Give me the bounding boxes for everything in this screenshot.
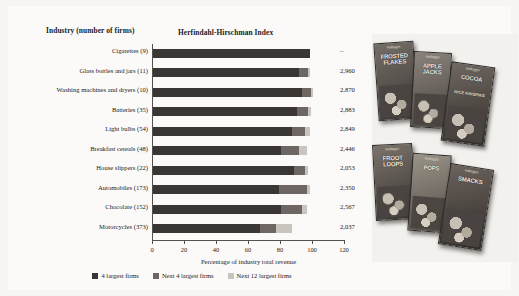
bar-segment-3	[305, 166, 308, 175]
x-tick-label: 0	[150, 246, 153, 253]
cereal-box-title: FROOT LOOPS	[376, 154, 411, 169]
bar-segment-1	[153, 185, 279, 194]
legend-swatch-icon	[153, 273, 159, 279]
legend-swatch-icon	[92, 273, 98, 279]
hhi-value: 2,567	[340, 203, 355, 210]
row-label-automobiles-173: Automobiles (173)	[0, 184, 148, 191]
hhi-value: 2,446	[340, 145, 355, 152]
stacked-bar	[153, 146, 307, 155]
bar-segment-2	[279, 185, 306, 194]
bar-segment-3	[311, 88, 313, 97]
x-tick-label: 60	[245, 246, 251, 253]
column-header-industry: Industry (number of firms)	[46, 26, 134, 35]
cereal-box-artwork	[441, 208, 484, 247]
legend-item-1: 4 largest firms	[92, 272, 138, 279]
hhi-value: 2,960	[340, 67, 355, 74]
cereal-box-subtitle: RICE KRISPIES	[450, 88, 488, 98]
x-tick-label: 40	[213, 246, 219, 253]
row-label-light-bulbs-54: Light bulbs (54)	[0, 125, 148, 132]
row-label-breakfast-cereals-48: Breakfast cereals (48)	[0, 145, 148, 152]
chart-row: Chocolate (152)2,567	[18, 200, 366, 220]
stacked-bar	[153, 185, 310, 194]
bar-segment-2	[299, 68, 309, 77]
x-tick	[344, 240, 345, 244]
hhi-value: 2,037	[340, 223, 355, 230]
bar-segment-2	[302, 88, 312, 97]
x-axis-label: Percentage of industry total revenue	[152, 258, 345, 265]
cereal-box-artwork	[413, 93, 447, 126]
stacked-bar	[153, 49, 310, 58]
cereal-box-brand: Kellogg's	[415, 156, 448, 163]
bar-segment-1	[153, 107, 297, 116]
x-tick-label: 80	[277, 246, 283, 253]
x-tick	[248, 240, 249, 244]
row-label-cigarettes-9: Cigarettes (9)	[0, 47, 148, 54]
stacked-bar	[153, 68, 310, 77]
bar-segment-1	[153, 49, 310, 58]
cereal-box-brand: Kellogg's	[417, 54, 449, 61]
hhi-value: 2,883	[340, 106, 355, 113]
bar-segment-3	[307, 185, 310, 194]
chart-row: House slippers (22)2,053	[18, 161, 366, 181]
bar-segment-1	[153, 205, 281, 214]
bar-segment-2	[260, 224, 276, 233]
page-background: Industry (number of firms) Herfindahl-Hi…	[0, 0, 519, 296]
plot-region: Cigarettes (9)–Glass bottles and jars (1…	[18, 44, 366, 240]
chart-row: Batteries (35)2,883	[18, 103, 366, 123]
row-label-batteries-35: Batteries (35)	[0, 106, 148, 113]
bar-segment-1	[153, 68, 299, 77]
bar-segment-1	[153, 146, 281, 155]
chart-row: Cigarettes (9)–	[18, 44, 366, 64]
x-tick	[184, 240, 185, 244]
figure-panel: Industry (number of firms) Herfindahl-Hi…	[8, 6, 511, 290]
row-label-washing-machines-and-dryers-10: Washing machines and dryers (10)	[0, 86, 148, 93]
x-tick-label: 120	[339, 246, 349, 253]
cereal-boxes-photo: Kellogg'sFROSTED FLAKESKellogg'sAPPLE JA…	[372, 34, 518, 262]
hhi-value: 2,053	[340, 164, 355, 171]
x-tick-label: 100	[307, 246, 317, 253]
chart-row: Breakfast cereals (48)2,446	[18, 142, 366, 162]
bar-segment-3	[276, 224, 292, 233]
bar-segment-2	[297, 107, 308, 116]
stacked-bar	[153, 224, 292, 233]
row-label-chocolate-152: Chocolate (152)	[0, 203, 148, 210]
cereal-box-title: POPS	[415, 164, 448, 173]
bar-segment-3	[308, 107, 311, 116]
bar-segment-1	[153, 88, 302, 97]
bar-segment-1	[153, 166, 294, 175]
legend-label: 4 largest firms	[101, 272, 138, 279]
bar-segment-3	[305, 127, 310, 136]
x-tick	[280, 240, 281, 244]
hhi-value: 2,849	[340, 125, 355, 132]
stacked-bar	[153, 107, 311, 116]
chart-row: Glass bottles and jars (11)2,960	[18, 64, 366, 84]
chart-row: Light bulbs (54)2,849	[18, 122, 366, 142]
stacked-bar	[153, 166, 308, 175]
cereal-box-artwork	[444, 106, 486, 144]
stacked-bar	[153, 205, 307, 214]
legend-swatch-icon	[228, 273, 234, 279]
bar-segment-1	[153, 127, 292, 136]
bar-segment-2	[292, 127, 305, 136]
legend-item-3: Next 12 largest firms	[228, 272, 292, 279]
legend-item-2: Next 4 largest firms	[153, 272, 214, 279]
row-label-motorcycles-373: Motorcycles (373)	[0, 223, 148, 230]
legend-label: Next 12 largest firms	[237, 272, 292, 279]
cereal-box-title: APPLE JACKS	[416, 62, 449, 76]
hhi-value: 2,350	[340, 184, 355, 191]
x-tick-label: 20	[181, 246, 187, 253]
stacked-bar	[153, 88, 313, 97]
bar-segment-3	[302, 205, 307, 214]
bar-segment-2	[281, 146, 299, 155]
hhi-value: –	[340, 47, 343, 54]
legend: 4 largest firmsNext 4 largest firmsNext …	[18, 272, 366, 279]
bar-segment-1	[153, 224, 260, 233]
x-tick	[216, 240, 217, 244]
row-label-house-slippers-22: House slippers (22)	[0, 164, 148, 171]
row-label-glass-bottles-and-jars-11: Glass bottles and jars (11)	[0, 67, 148, 74]
chart-area: Industry (number of firms) Herfindahl-Hi…	[18, 14, 366, 286]
cereal-box-title: FROSTED FLAKES	[377, 52, 412, 67]
chart-row: Washing machines and dryers (10)2,870	[18, 83, 366, 103]
x-axis: 020406080100120 Percentage of industry t…	[18, 240, 366, 286]
bar-segment-3	[299, 146, 307, 155]
